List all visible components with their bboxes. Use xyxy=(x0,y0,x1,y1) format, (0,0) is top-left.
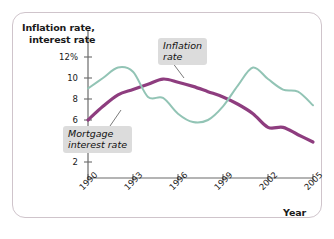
annotation-inflation-line1: Inflation xyxy=(163,40,202,51)
leader-line-mortgage xyxy=(110,110,121,126)
y-axis-tick-label: 8 xyxy=(48,94,78,104)
annotation-mortgage-interest-rate: Mortgage interest rate xyxy=(63,126,132,153)
y-axis-tick-label: 10 xyxy=(48,73,78,83)
line-chart: Inflation rate, interest rate Year 24681… xyxy=(0,0,334,239)
x-axis-title: Year xyxy=(283,207,306,219)
y-axis-title-line2: interest rate xyxy=(22,34,95,46)
annotation-mortgage-line1: Mortgage xyxy=(68,128,113,139)
y-axis-title-line1: Inflation rate, xyxy=(22,22,95,33)
series-line-mortgage-interest-rate xyxy=(88,67,313,123)
y-axis-tick-label: 2 xyxy=(48,157,78,167)
annotation-mortgage-line2: interest rate xyxy=(68,139,127,150)
annotation-inflation-rate: Inflation rate xyxy=(158,38,207,65)
y-axis-tick-label: 6 xyxy=(48,115,78,125)
y-axis-tick-label: 12% xyxy=(48,52,78,62)
annotation-inflation-line2: rate xyxy=(163,51,182,62)
y-axis-title: Inflation rate, interest rate xyxy=(22,22,95,45)
